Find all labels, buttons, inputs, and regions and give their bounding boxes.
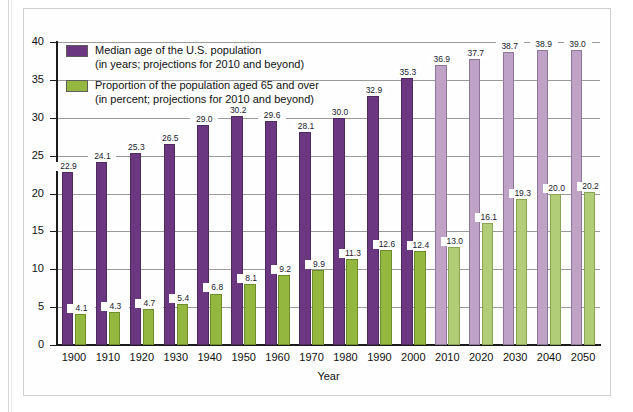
legend-text-proportion-65: Proportion of the population aged 65 and… bbox=[95, 79, 319, 106]
bar-median-age bbox=[62, 172, 74, 345]
x-tick-label: 1920 bbox=[125, 351, 159, 364]
bar-median-age bbox=[299, 132, 311, 345]
x-tick-label: 1960 bbox=[261, 351, 295, 364]
bar-median-age bbox=[197, 125, 209, 345]
y-tick-label: 30 bbox=[18, 112, 44, 123]
bar-value-label-proportion-65: 12.6 bbox=[373, 240, 401, 249]
bar-proportion-65 bbox=[244, 284, 256, 345]
bar-proportion-65 bbox=[448, 247, 460, 345]
bar-proportion-65 bbox=[278, 275, 290, 345]
bar-median-age bbox=[265, 121, 277, 345]
bar-value-label-median-age: 38.7 bbox=[496, 42, 524, 51]
bar-value-label-proportion-65: 20.2 bbox=[577, 182, 605, 191]
bar-median-age bbox=[469, 59, 481, 345]
x-tick-label: 1950 bbox=[227, 351, 261, 364]
bar-value-label-proportion-65: 11.3 bbox=[339, 249, 367, 258]
bar-median-age bbox=[164, 144, 176, 345]
chart-figure: 0510152025303540 22.94.124.14.325.34.726… bbox=[0, 0, 633, 412]
bar-proportion-65 bbox=[312, 270, 324, 345]
bar-value-label-proportion-65: 12.4 bbox=[407, 241, 435, 250]
bar-median-age bbox=[503, 52, 515, 345]
bar-median-age bbox=[367, 96, 379, 345]
y-tick-label: 40 bbox=[18, 36, 44, 47]
bar-proportion-65 bbox=[210, 294, 222, 346]
legend-swatch-purple-icon bbox=[66, 45, 88, 57]
bar-value-label-median-age: 39.0 bbox=[564, 40, 592, 49]
bar-value-label-median-age: 28.1 bbox=[292, 122, 320, 131]
bar-median-age bbox=[401, 78, 413, 345]
x-tick-label: 2000 bbox=[396, 351, 430, 364]
bar-median-age bbox=[571, 50, 583, 345]
bar-proportion-65 bbox=[143, 309, 155, 345]
x-tick-label: 2040 bbox=[532, 351, 566, 364]
bar-proportion-65 bbox=[550, 194, 562, 346]
bar-proportion-65 bbox=[482, 223, 494, 345]
bar-value-label-proportion-65: 5.4 bbox=[169, 294, 197, 303]
bar-proportion-65 bbox=[109, 312, 121, 345]
bar-value-label-median-age: 25.3 bbox=[122, 143, 150, 152]
x-tick-label: 1990 bbox=[362, 351, 396, 364]
bar-value-label-median-age: 24.1 bbox=[88, 152, 116, 161]
bar-median-age bbox=[231, 116, 243, 345]
bar-proportion-65 bbox=[516, 199, 528, 345]
y-tick-label: 5 bbox=[18, 301, 44, 312]
x-tick-label: 1900 bbox=[57, 351, 91, 364]
bar-proportion-65 bbox=[75, 314, 87, 345]
bar-value-label-proportion-65: 6.8 bbox=[203, 283, 231, 292]
bar-value-label-proportion-65: 8.1 bbox=[237, 274, 265, 283]
bar-proportion-65 bbox=[177, 304, 189, 345]
y-axis-ticks: 0510152025303540 bbox=[0, 0, 46, 412]
legend-item-median-age: Median age of the U.S. population (in ye… bbox=[66, 44, 366, 71]
x-tick-label: 2010 bbox=[430, 351, 464, 364]
bar-median-age bbox=[537, 50, 549, 345]
bar-value-label-proportion-65: 16.1 bbox=[475, 213, 503, 222]
x-tick-label: 1970 bbox=[295, 351, 329, 364]
y-tick-label: 0 bbox=[18, 339, 44, 350]
bar-value-label-median-age: 37.7 bbox=[462, 49, 490, 58]
bar-median-age bbox=[435, 65, 447, 345]
legend-line-1: Proportion of the population aged 65 and… bbox=[95, 79, 319, 91]
x-tick-label: 2030 bbox=[498, 351, 532, 364]
x-tick-label: 1980 bbox=[328, 351, 362, 364]
x-tick-label: 2050 bbox=[566, 351, 600, 364]
legend-line-2: (in percent; projections for 2010 and be… bbox=[95, 93, 314, 105]
bar-median-age bbox=[333, 118, 345, 345]
x-tick-label: 1910 bbox=[91, 351, 125, 364]
bar-value-label-proportion-65: 9.2 bbox=[271, 265, 299, 274]
y-tick-label: 10 bbox=[18, 263, 44, 274]
bar-value-label-proportion-65: 20.0 bbox=[543, 184, 571, 193]
legend-text-median-age: Median age of the U.S. population (in ye… bbox=[95, 44, 304, 71]
x-tick-label: 1930 bbox=[159, 351, 193, 364]
x-tick-label: 1940 bbox=[193, 351, 227, 364]
y-tick-label: 15 bbox=[18, 225, 44, 236]
bar-value-label-proportion-65: 9.9 bbox=[305, 260, 333, 269]
bar-median-age bbox=[130, 153, 142, 345]
x-tick-label: 2020 bbox=[464, 351, 498, 364]
legend-line-1: Median age of the U.S. population bbox=[95, 44, 261, 56]
bar-proportion-65 bbox=[346, 259, 358, 345]
bar-value-label-median-age: 26.5 bbox=[156, 134, 184, 143]
y-tick-label: 20 bbox=[18, 188, 44, 199]
bar-value-label-proportion-65: 4.7 bbox=[135, 299, 163, 308]
bar-proportion-65 bbox=[584, 192, 596, 345]
bar-value-label-proportion-65: 13.0 bbox=[441, 237, 469, 246]
chart-legend: Median age of the U.S. population (in ye… bbox=[66, 44, 366, 114]
bar-value-label-proportion-65: 19.3 bbox=[509, 189, 537, 198]
bar-value-label-median-age: 38.9 bbox=[530, 40, 558, 49]
legend-swatch-green-icon bbox=[66, 80, 88, 92]
y-tick-label: 35 bbox=[18, 74, 44, 85]
bar-value-label-median-age: 22.9 bbox=[54, 162, 82, 171]
bar-proportion-65 bbox=[380, 250, 392, 345]
bar-median-age bbox=[96, 162, 108, 345]
bar-proportion-65 bbox=[414, 251, 426, 345]
legend-item-proportion-65: Proportion of the population aged 65 and… bbox=[66, 79, 366, 106]
bar-value-label-median-age: 29.0 bbox=[190, 115, 218, 124]
bar-value-label-median-age: 35.3 bbox=[394, 68, 422, 77]
x-axis-title: Year bbox=[289, 370, 369, 382]
y-tick-label: 25 bbox=[18, 150, 44, 161]
bar-value-label-median-age: 36.9 bbox=[428, 55, 456, 64]
bar-value-label-proportion-65: 4.3 bbox=[101, 302, 129, 311]
legend-line-2: (in years; projections for 2010 and beyo… bbox=[95, 58, 304, 70]
bar-value-label-proportion-65: 4.1 bbox=[67, 304, 95, 313]
